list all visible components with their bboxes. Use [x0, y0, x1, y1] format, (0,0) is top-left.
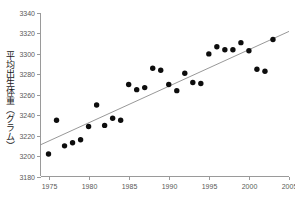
data-point	[198, 81, 203, 86]
x-tick-label: 1975	[42, 183, 58, 190]
data-points-group	[46, 37, 276, 157]
chart-canvas: 318032003220324032603280330033203340 197…	[0, 0, 295, 200]
data-point	[62, 143, 67, 148]
y-tick-label: 3180	[19, 174, 35, 181]
y-tick-label: 3260	[19, 92, 35, 99]
x-tick-label: 2005	[282, 183, 295, 190]
y-tick-label: 3340	[19, 10, 35, 17]
x-axis: 1975198019851990199520002005	[41, 177, 296, 191]
data-point	[190, 80, 195, 85]
data-point	[262, 69, 267, 74]
trend-line-group	[41, 31, 290, 144]
data-point	[94, 102, 99, 107]
data-point	[230, 47, 235, 52]
data-point	[214, 44, 219, 49]
y-tick-label: 3240	[19, 112, 35, 119]
x-tick-label: 1995	[202, 183, 218, 190]
y-tick-label: 3200	[19, 153, 35, 160]
data-point	[78, 137, 83, 142]
data-point	[110, 116, 115, 121]
data-point	[158, 68, 163, 73]
x-axis-ticks: 1975198019851990199520002005	[42, 177, 295, 191]
data-point	[86, 124, 91, 129]
y-axis: 318032003220324032603280330033203340	[19, 10, 40, 181]
regression-line	[41, 31, 290, 144]
data-point	[142, 85, 147, 90]
data-point	[254, 67, 259, 72]
x-tick-label: 1985	[122, 183, 138, 190]
data-point	[54, 118, 59, 123]
data-point	[206, 51, 211, 56]
data-point	[46, 151, 51, 156]
x-tick-label: 2000	[242, 183, 258, 190]
y-axis-ticks: 318032003220324032603280330033203340	[19, 10, 40, 181]
data-point	[174, 88, 179, 93]
data-point	[118, 118, 123, 123]
data-point	[182, 71, 187, 76]
y-tick-label: 3320	[19, 30, 35, 37]
data-point	[126, 82, 131, 87]
y-tick-label: 3280	[19, 71, 35, 78]
data-point	[222, 47, 227, 52]
data-point	[70, 140, 75, 145]
data-point	[166, 82, 171, 87]
scatter-chart: 318032003220324032603280330033203340 197…	[0, 0, 295, 200]
y-tick-label: 3300	[19, 51, 35, 58]
data-point	[238, 40, 243, 45]
data-point	[270, 37, 275, 42]
x-tick-label: 1990	[162, 183, 178, 190]
data-point	[102, 123, 107, 128]
data-point	[134, 87, 139, 92]
x-tick-label: 1980	[82, 183, 98, 190]
y-tick-label: 3220	[19, 133, 35, 140]
data-point	[246, 48, 251, 53]
data-point	[150, 65, 155, 70]
